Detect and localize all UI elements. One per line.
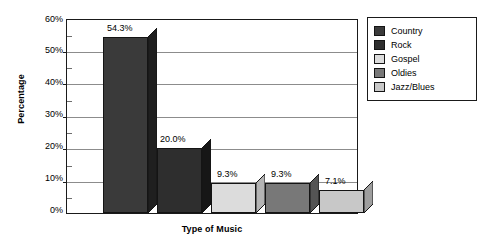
y-minor-tick-5 xyxy=(67,198,72,199)
y-axis-tick-labels: 60% 50% 40% 30% 20% 10% 0% xyxy=(33,0,63,249)
y-minor-tick-45 xyxy=(67,68,72,69)
legend-swatch-jazz-blues xyxy=(374,82,385,92)
y-major-tick-40 xyxy=(63,84,67,85)
y-tick-label-30: 30% xyxy=(35,110,63,119)
legend-label-country: Country xyxy=(391,26,423,36)
y-minor-tick-15 xyxy=(67,166,72,167)
legend-swatch-oldies xyxy=(374,68,385,78)
legend-label-gospel: Gospel xyxy=(391,54,420,64)
bar-label-jazz-blues: 7.1% xyxy=(325,177,346,186)
plot-area: 54.3% 20.0% 9.3% 9.3% 7.1% xyxy=(66,19,358,214)
legend-item-rock[interactable]: Rock xyxy=(374,38,471,52)
bar-rock[interactable] xyxy=(157,148,202,213)
bar-jazz-blues-side xyxy=(364,181,373,213)
bar-country-front xyxy=(103,37,148,213)
bar-jazz-blues-front xyxy=(319,190,364,213)
y-major-tick-20 xyxy=(63,149,67,150)
bar-gospel-side xyxy=(256,174,265,213)
bar-oldies-side xyxy=(310,174,319,213)
legend-swatch-rock xyxy=(374,40,385,50)
bar-label-country: 54.3% xyxy=(107,24,133,33)
bar-country-side xyxy=(148,28,157,213)
y-minor-tick-55 xyxy=(67,36,72,37)
y-tick-label-20: 20% xyxy=(35,142,63,151)
bar-label-oldies: 9.3% xyxy=(271,170,292,179)
legend-item-oldies[interactable]: Oldies xyxy=(374,66,471,80)
y-tick-label-50: 50% xyxy=(35,46,63,55)
y-tick-label-0: 0% xyxy=(35,206,63,215)
y-minor-tick-35 xyxy=(67,101,72,102)
y-major-tick-30 xyxy=(63,117,67,118)
legend-item-gospel[interactable]: Gospel xyxy=(374,52,471,66)
y-minor-tick-25 xyxy=(67,133,72,134)
bar-oldies[interactable] xyxy=(265,183,310,213)
y-tick-label-60: 60% xyxy=(35,15,63,24)
bar-country[interactable] xyxy=(103,37,148,213)
y-major-tick-50 xyxy=(63,52,67,53)
x-axis-title: Type of Music xyxy=(66,224,358,234)
y-axis-title: Percentage xyxy=(16,54,26,144)
bar-rock-front xyxy=(157,148,202,213)
legend: Country Rock Gospel Oldies Jazz/Blues xyxy=(367,17,477,101)
bar-gospel-front xyxy=(211,183,256,213)
bar-chart: Percentage 60% 50% 40% 30% 20% 10% 0% xyxy=(0,0,487,249)
legend-label-rock: Rock xyxy=(391,40,412,50)
legend-item-country[interactable]: Country xyxy=(374,24,471,38)
bar-label-gospel: 9.3% xyxy=(217,170,238,179)
bar-jazz-blues[interactable] xyxy=(319,190,364,213)
legend-label-oldies: Oldies xyxy=(391,68,417,78)
y-tick-label-10: 10% xyxy=(35,174,63,183)
legend-item-jazz-blues[interactable]: Jazz/Blues xyxy=(374,80,471,94)
bar-rock-side xyxy=(202,139,211,213)
legend-label-jazz-blues: Jazz/Blues xyxy=(391,82,435,92)
y-tick-label-40: 40% xyxy=(35,78,63,87)
bar-gospel[interactable] xyxy=(211,183,256,213)
y-major-tick-10 xyxy=(63,182,67,183)
bar-oldies-front xyxy=(265,183,310,213)
legend-swatch-country xyxy=(374,26,385,36)
bar-label-rock: 20.0% xyxy=(160,135,186,144)
legend-swatch-gospel xyxy=(374,54,385,64)
